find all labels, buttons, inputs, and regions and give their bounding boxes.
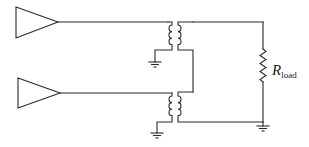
amplifier-bottom [18, 78, 172, 108]
ground-icon [151, 133, 163, 138]
ground-icon [149, 62, 161, 67]
resistor-label: Rload [271, 62, 297, 80]
transformer-bottom [157, 92, 263, 133]
transformer-top [155, 22, 193, 92]
circuit-diagram: Rload [0, 0, 309, 147]
amplifier-top [16, 7, 168, 38]
resistor-load [260, 49, 266, 122]
ground-icon [257, 122, 269, 131]
